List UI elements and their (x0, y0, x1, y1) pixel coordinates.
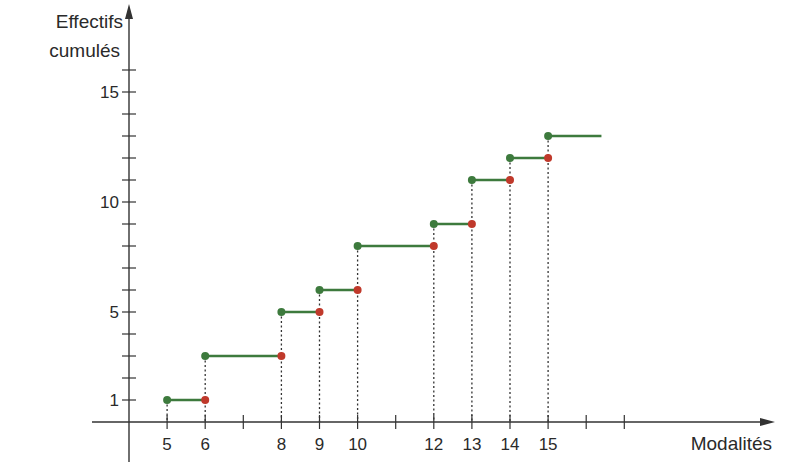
x-tick-label: 15 (539, 435, 558, 454)
closed-point (468, 176, 476, 184)
y-axis-label-line2: cumulés (49, 40, 120, 61)
x-axis-label: Modalités (691, 433, 772, 454)
closed-point (544, 132, 552, 140)
y-axis-label-line1: Effectifs (56, 11, 123, 32)
open-point (468, 220, 476, 228)
closed-point (506, 154, 514, 162)
step-segments (163, 132, 601, 404)
x-tick-label: 13 (462, 435, 481, 454)
open-point (430, 242, 438, 250)
open-point (506, 176, 514, 184)
open-point (354, 286, 362, 294)
x-axis-arrow-icon (760, 418, 775, 426)
y-axis-arrow-icon (125, 4, 133, 19)
x-tick-label: 6 (200, 435, 209, 454)
open-point (544, 154, 552, 162)
closed-point (316, 286, 324, 294)
open-point (316, 308, 324, 316)
x-tick-label: 9 (315, 435, 324, 454)
x-tick-label: 14 (501, 435, 520, 454)
closed-point (163, 396, 171, 404)
closed-point (277, 308, 285, 316)
x-tick-label: 10 (348, 435, 367, 454)
open-point (201, 396, 209, 404)
y-tick-label: 15 (100, 83, 119, 102)
y-tick-label: 5 (110, 303, 119, 322)
cumulative-step-chart: 15101556891012131415 Effectifs cumulés M… (0, 0, 799, 471)
closed-point (201, 352, 209, 360)
open-point (277, 352, 285, 360)
x-tick-label: 12 (424, 435, 443, 454)
x-tick-label: 8 (277, 435, 286, 454)
closed-point (354, 242, 362, 250)
closed-point (430, 220, 438, 228)
y-tick-label: 1 (110, 391, 119, 410)
y-tick-label: 10 (100, 193, 119, 212)
x-tick-label: 5 (162, 435, 171, 454)
